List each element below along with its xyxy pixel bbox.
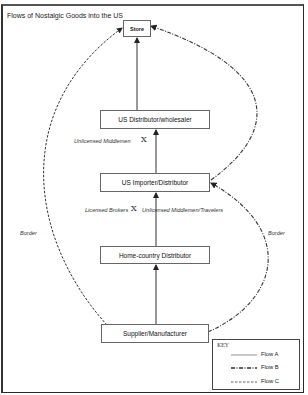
flow-a-distributor-to-store <box>136 37 156 110</box>
legend-item-flow-c: Flow C <box>213 377 301 387</box>
flow-b-importer-to-store <box>151 26 257 180</box>
flow-b-supplier-to-importer <box>208 183 268 332</box>
label-border-left: Border <box>20 230 37 236</box>
dashed-line-icon <box>213 377 261 387</box>
legend: KEY Flow A Flow B Flow C <box>212 339 300 390</box>
node-store: Store <box>123 20 151 37</box>
diagram-title: Flows of Nostalgic Goods into the US <box>7 12 123 19</box>
legend-title: KEY <box>217 342 229 348</box>
dash-dot-line-icon <box>213 363 261 373</box>
legend-item-flow-a: Flow A <box>213 350 301 360</box>
label-border-right: Border <box>268 230 285 236</box>
node-us-importer: US Importer/Distributor <box>100 173 210 192</box>
solid-line-icon <box>213 350 261 360</box>
cross-symbol: X <box>131 204 137 213</box>
cross-symbol: X <box>141 135 147 144</box>
label-licensed-brokers: Licensed Brokers <box>85 207 128 213</box>
node-us-distributor: US Distributor/wholesaler <box>100 110 210 129</box>
legend-item-flow-b: Flow B <box>213 363 301 373</box>
label-unlicensed-travelers: Unlicensed Middlemen/Travelers <box>142 207 223 213</box>
node-supplier: Supplier/Manufacturer <box>101 324 209 343</box>
node-home-distributor: Home-country Distributor <box>100 246 210 264</box>
label-unlicensed-middlemen: Unlicensed Middlemen <box>74 138 131 144</box>
